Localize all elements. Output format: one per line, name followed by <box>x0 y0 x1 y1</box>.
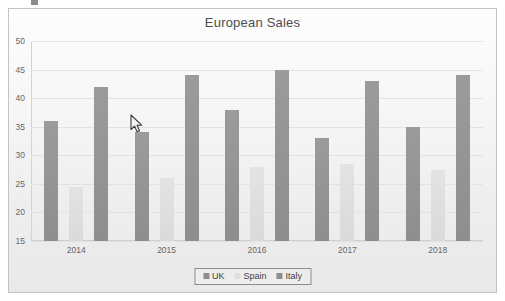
y-gridline <box>31 70 483 71</box>
bar-spain-2017[interactable] <box>340 164 354 241</box>
bar-italy-2018[interactable] <box>456 75 470 241</box>
bar-italy-2017[interactable] <box>365 81 379 241</box>
bar-spain-2014[interactable] <box>69 187 83 241</box>
legend-swatch-italy <box>277 273 283 279</box>
bar-uk-2014[interactable] <box>44 121 58 241</box>
bar-italy-2016[interactable] <box>275 70 289 241</box>
y-axis-tick-label: 50 <box>16 36 25 46</box>
y-axis-tick-label: 40 <box>16 93 25 103</box>
chart-title: European Sales <box>9 15 496 30</box>
legend-label: Italy <box>286 271 303 281</box>
bar-uk-2015[interactable] <box>135 132 149 241</box>
legend-label: Spain <box>243 271 266 281</box>
bar-spain-2018[interactable] <box>431 170 445 241</box>
chart-legend[interactable]: UKSpainItaly <box>194 268 311 285</box>
bar-italy-2014[interactable] <box>94 87 108 241</box>
legend-item-italy[interactable]: Italy <box>277 271 303 281</box>
chart-screenshot: European Sales 5045403530252015201420152… <box>0 0 505 301</box>
legend-item-uk[interactable]: UK <box>203 271 225 281</box>
y-axis-tick-label: 35 <box>16 122 25 132</box>
y-axis-tick-label: 45 <box>16 65 25 75</box>
y-axis-tick-label: 30 <box>16 150 25 160</box>
y-axis-tick-label: 25 <box>16 179 25 189</box>
bar-spain-2015[interactable] <box>160 178 174 241</box>
y-axis-tick-label: 15 <box>16 236 25 246</box>
x-axis-tick-label: 2018 <box>428 245 447 255</box>
x-axis-tick-label: 2017 <box>338 245 357 255</box>
top-edge-marker <box>31 0 38 5</box>
bar-uk-2016[interactable] <box>225 110 239 241</box>
bar-italy-2015[interactable] <box>185 75 199 241</box>
plot-area: 504540353025201520142015201620172018 <box>31 41 483 241</box>
bar-spain-2016[interactable] <box>250 167 264 241</box>
x-axis-tick-label: 2014 <box>67 245 86 255</box>
bar-uk-2017[interactable] <box>315 138 329 241</box>
y-axis-tick-label: 20 <box>16 207 25 217</box>
legend-swatch-uk <box>203 273 209 279</box>
y-gridline <box>31 41 483 42</box>
y-gridline <box>31 241 483 242</box>
bar-uk-2018[interactable] <box>406 127 420 241</box>
legend-swatch-spain <box>234 273 240 279</box>
x-axis-tick-label: 2015 <box>157 245 176 255</box>
x-axis-tick-label: 2016 <box>248 245 267 255</box>
legend-label: UK <box>212 271 225 281</box>
legend-item-spain[interactable]: Spain <box>234 271 266 281</box>
